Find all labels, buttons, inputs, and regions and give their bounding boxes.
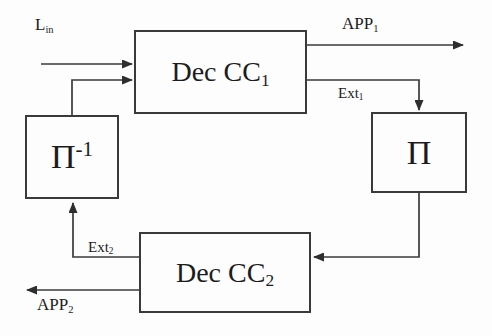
interleaver-block[interactable]: Π [371,112,467,193]
dec-cc1-block[interactable]: Dec CC1 [134,30,307,114]
app1-output-label-subscript: 1 [373,23,378,34]
dec-cc2-label-subscript: 2 [265,271,274,290]
input-llr-label: Lin [35,16,54,33]
ext1-label: Ext1 [338,86,364,101]
dec-cc2-label: Dec CC2 [176,259,274,287]
dec-cc1-label: Dec CC1 [171,58,269,86]
app2-output-label-subscript: 2 [68,304,73,315]
app1-output-label: APP1 [342,15,378,32]
interleaver-label: Π [407,136,432,170]
app2-output-label: APP2 [37,296,73,313]
ext2-label-subscript: 2 [109,246,114,256]
wire-deinterleaver-to-dec-cc1 [72,80,132,115]
dec-cc2-block[interactable]: Dec CC2 [139,232,311,313]
block-diagram-canvas: Dec CC1 Π Π-1 Dec CC2 Lin APP1 Ext1 Ext2… [0,0,492,336]
deinterleaver-block[interactable]: Π-1 [25,115,119,199]
ext2-label: Ext2 [88,240,114,255]
deinterleaver-label: Π-1 [51,140,93,174]
input-llr-label-subscript: in [45,24,53,35]
wire-interleaver-to-dec-cc2 [314,193,419,257]
deinterleaver-label-superscript: -1 [76,137,94,161]
ext1-label-subscript: 1 [359,92,364,102]
dec-cc1-label-subscript: 1 [261,71,270,90]
